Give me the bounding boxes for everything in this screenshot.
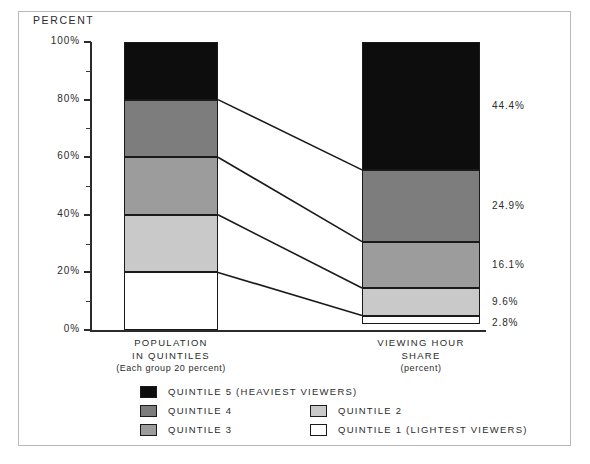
connector-line <box>218 157 362 241</box>
legend-label: QUINTILE 1 (LIGHTEST VIEWERS) <box>338 424 528 435</box>
connector-line <box>218 215 362 288</box>
legend-label: QUINTILE 2 <box>338 405 402 416</box>
figure-stacked-bar-chart: PERCENT 100%80%60%40%20%0% 44.4%24.9%16.… <box>0 0 590 464</box>
bar-segment[interactable] <box>362 170 480 242</box>
legend-item[interactable]: QUINTILE 1 (LIGHTEST VIEWERS) <box>310 420 528 439</box>
legend-item[interactable]: QUINTILE 5 (HEAVIEST VIEWERS) <box>140 382 358 401</box>
category-label-line: VIEWING HOUR <box>311 337 531 350</box>
category-label-line: POPULATION <box>61 337 281 350</box>
bar-viewing-hour-share[interactable] <box>362 42 480 330</box>
bar-segment[interactable] <box>362 316 480 324</box>
bar-segment[interactable] <box>124 42 218 100</box>
bar-segment[interactable] <box>362 42 480 170</box>
bar-segment[interactable] <box>124 215 218 273</box>
legend-swatch <box>310 424 327 436</box>
category-label-line: IN QUINTILES <box>61 350 281 363</box>
bar-segment[interactable] <box>124 157 218 215</box>
bar-segment[interactable] <box>124 100 218 158</box>
bar-segment[interactable] <box>362 288 480 316</box>
category-sublabel: (Each group 20 percent) <box>61 362 281 375</box>
legend-item[interactable]: QUINTILE 2 <box>310 401 402 420</box>
segment-value-label: 24.9% <box>492 200 525 211</box>
legend-label: QUINTILE 3 <box>168 424 232 435</box>
bar-population-in-quintiles[interactable] <box>124 42 218 330</box>
legend-swatch <box>140 386 157 398</box>
legend-label: QUINTILE 4 <box>168 405 232 416</box>
legend-label: QUINTILE 5 (HEAVIEST VIEWERS) <box>168 386 358 397</box>
category-label-viewing-hour: VIEWING HOURSHARE(percent) <box>311 337 531 375</box>
segment-value-label: 2.8% <box>492 317 518 328</box>
segment-value-label: 44.4% <box>492 100 525 111</box>
legend-swatch <box>140 405 157 417</box>
legend-swatch <box>140 424 157 436</box>
connector-line <box>218 100 362 170</box>
bar-segment[interactable] <box>362 242 480 288</box>
legend-swatch <box>310 405 327 417</box>
legend-item[interactable]: QUINTILE 4 <box>140 401 232 420</box>
category-label-line: SHARE <box>311 350 531 363</box>
legend-item[interactable]: QUINTILE 3 <box>140 420 232 439</box>
segment-value-label: 16.1% <box>492 259 525 270</box>
category-label-population: POPULATIONIN QUINTILES(Each group 20 per… <box>61 337 281 375</box>
category-sublabel: (percent) <box>311 362 531 375</box>
bar-segment[interactable] <box>124 272 218 330</box>
segment-value-label: 9.6% <box>492 296 518 307</box>
connector-line <box>218 272 362 315</box>
